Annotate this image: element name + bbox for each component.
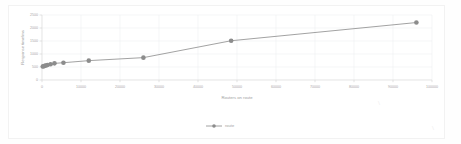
y-axis — [40, 15, 43, 80]
x-tick-label: 10000 — [76, 85, 86, 89]
scan-artifact-lower: \ — [432, 124, 434, 132]
y-tick-label: 2500 — [30, 13, 38, 17]
x-axis-title: Routers on route — [221, 95, 253, 100]
y-tick-label: 500 — [32, 65, 38, 69]
x-tick-label: 40000 — [193, 85, 203, 89]
x-tick-label: 70000 — [310, 85, 320, 89]
x-tick-label: 0 — [41, 85, 43, 89]
y-tick-label: 1000 — [30, 52, 38, 56]
x-axis — [42, 80, 432, 82]
x-tick-label: 90000 — [388, 85, 398, 89]
series-line — [43, 23, 417, 67]
chart-plot-area: 0 500 1000 1500 2000 2500 0 10000 20000 … — [0, 0, 461, 144]
x-tick-label: 30000 — [154, 85, 164, 89]
legend-label[interactable]: route — [225, 123, 235, 128]
legend: route — [206, 123, 235, 128]
series-data-point[interactable] — [48, 62, 53, 67]
line-chart-svg: 0 500 1000 1500 2000 2500 0 10000 20000 … — [0, 0, 461, 144]
y-tick-label: 2000 — [30, 26, 38, 30]
scan-artifact-upper: \ — [378, 99, 380, 107]
x-tick-label: 100000 — [426, 85, 438, 89]
chart-screenshot: 0 500 1000 1500 2000 2500 0 10000 20000 … — [0, 0, 461, 144]
y-axis-title: Response time/ms — [20, 30, 25, 65]
x-tick-labels: 0 10000 20000 30000 40000 50000 60000 70… — [41, 85, 438, 89]
series-data-point[interactable] — [61, 60, 66, 65]
series-data-point[interactable] — [229, 38, 234, 43]
y-tick-label: 1500 — [30, 39, 38, 43]
x-tick-label: 80000 — [349, 85, 359, 89]
grid-vertical — [81, 15, 432, 80]
legend-marker-icon — [212, 124, 216, 128]
series-route — [40, 20, 418, 69]
x-tick-label: 20000 — [115, 85, 125, 89]
x-tick-label: 60000 — [271, 85, 281, 89]
series-data-point[interactable] — [87, 58, 92, 63]
x-tick-label: 50000 — [232, 85, 242, 89]
series-data-point[interactable] — [52, 61, 57, 66]
series-data-point[interactable] — [414, 20, 419, 25]
y-tick-labels: 0 500 1000 1500 2000 2500 — [30, 13, 38, 82]
series-data-point[interactable] — [141, 55, 146, 60]
y-tick-label: 0 — [36, 78, 38, 82]
